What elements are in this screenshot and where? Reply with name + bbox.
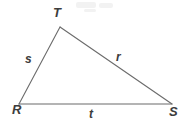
side-label-r: r [116,51,121,63]
vertex-label-s: S [169,105,178,118]
triangle-figure: T R S s r t [0,0,185,124]
side-label-t: t [89,108,93,120]
scan-artifact-smudge [84,9,96,12]
vertex-label-r: R [12,103,21,116]
side-r-line [60,27,172,104]
scan-artifact-smudge [99,3,113,8]
scan-artifact-smudge [76,2,96,8]
side-label-s: s [25,53,32,65]
vertex-label-t: T [53,6,61,19]
